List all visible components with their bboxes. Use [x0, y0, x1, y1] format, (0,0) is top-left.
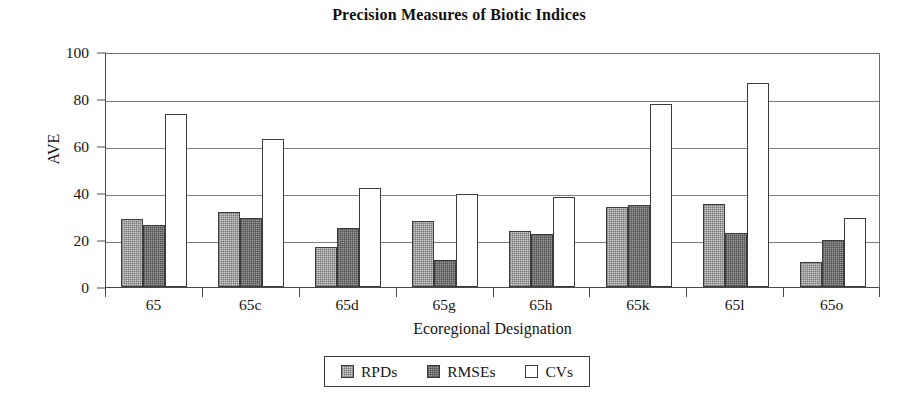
x-axis-tick-label: 65d — [336, 296, 359, 314]
y-axis-tick-label: 80 — [74, 91, 90, 109]
bar — [262, 139, 284, 287]
chart-legend: RPDsRMSEsCVs — [324, 356, 590, 387]
bar — [822, 240, 844, 287]
y-axis-tick-label: 40 — [74, 185, 90, 203]
x-axis-tick-label: 65c — [239, 296, 261, 314]
bar-chart: Precision Measures of Biotic Indices AVE… — [0, 0, 918, 415]
legend-entry: RPDs — [341, 363, 397, 381]
bar — [725, 233, 747, 287]
bar — [412, 221, 434, 287]
bar — [165, 114, 187, 287]
y-axis-tick-labels: 020406080100 — [45, 53, 97, 288]
bar — [434, 260, 456, 287]
plot-area — [105, 53, 880, 288]
legend-entry: CVs — [525, 363, 573, 381]
y-axis-tick-label: 100 — [66, 44, 89, 62]
legend-label: CVs — [545, 363, 573, 381]
bar — [143, 225, 165, 287]
chart-title: Precision Measures of Biotic Indices — [0, 6, 918, 24]
x-axis-tick-label: 65g — [432, 296, 455, 314]
bar — [218, 212, 240, 287]
legend-label: RPDs — [361, 363, 397, 381]
legend-entry: RMSEs — [427, 363, 495, 381]
bar — [121, 219, 143, 287]
bar — [531, 234, 553, 287]
bar — [240, 218, 262, 287]
bar — [315, 247, 337, 287]
bar — [456, 194, 478, 287]
bar — [553, 197, 575, 287]
bar — [844, 218, 866, 287]
bar — [509, 231, 531, 287]
x-axis-tick-label: 65 — [146, 296, 162, 314]
bar — [337, 228, 359, 287]
y-axis-tick-label: 20 — [74, 232, 90, 250]
y-axis-tick-label: 60 — [74, 138, 90, 156]
bar — [628, 205, 650, 287]
legend-swatch-icon — [341, 365, 354, 378]
y-axis-tick-label: 0 — [81, 279, 89, 297]
bar — [359, 188, 381, 287]
bar — [800, 262, 822, 287]
x-axis-tick-label: 65o — [820, 296, 843, 314]
bar — [650, 104, 672, 287]
bar — [606, 207, 628, 287]
bar — [703, 204, 725, 287]
legend-swatch-icon — [427, 365, 440, 378]
x-axis-tick-label: 65l — [725, 296, 745, 314]
x-axis-tick-label: 65k — [626, 296, 649, 314]
legend-label: RMSEs — [447, 363, 495, 381]
legend-swatch-icon — [525, 365, 538, 378]
x-axis-title: Ecoregional Designation — [105, 320, 880, 338]
x-axis-tick-labels: 6565c65d65g65h65k65l65o — [105, 296, 880, 318]
bar — [747, 83, 769, 287]
x-axis-tick-label: 65h — [529, 296, 552, 314]
